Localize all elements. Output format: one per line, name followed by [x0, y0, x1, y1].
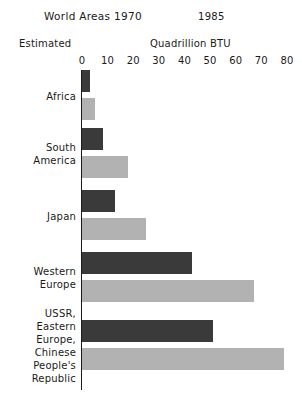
bar-group: Japan — [0, 190, 302, 240]
x-axis-ticks: 01020304050607080 — [0, 55, 302, 69]
bar-group: Western Europe — [0, 252, 302, 302]
category-label: Japan — [0, 210, 76, 223]
x-tick-label: 80 — [280, 55, 293, 66]
bar-1985 — [82, 98, 95, 120]
x-tick-label: 20 — [127, 55, 140, 66]
bar-chart: World Areas 1970 1985 Estimated Quadrill… — [0, 0, 302, 408]
category-label: Africa — [0, 90, 76, 103]
bar-1970 — [82, 128, 103, 150]
category-label: Western Europe — [0, 265, 76, 291]
chart-title-row: World Areas 1970 1985 — [0, 10, 302, 26]
estimated-note: Estimated — [19, 38, 71, 49]
category-label: South America — [0, 141, 76, 167]
title-year-1985: 1985 — [198, 11, 225, 22]
x-tick-label: 30 — [152, 55, 165, 66]
x-tick-label: 0 — [79, 55, 86, 66]
bar-1970 — [82, 190, 115, 212]
axis-unit-label: Quadrillion BTU — [150, 38, 231, 49]
bar-1970 — [82, 252, 192, 274]
page-title: World Areas 1970 — [44, 10, 142, 22]
bar-1985 — [82, 348, 284, 370]
x-tick-label: 50 — [204, 55, 217, 66]
bar-group: Africa — [0, 70, 302, 120]
x-tick-label: 10 — [101, 55, 114, 66]
bar-1985 — [82, 156, 128, 178]
category-label: USSR, Eastern Europe, Chinese People's R… — [0, 307, 76, 385]
bar-group: USSR, Eastern Europe, Chinese People's R… — [0, 320, 302, 370]
bar-1985 — [82, 280, 254, 302]
chart-subtitle-row: Estimated Quadrillion BTU — [0, 38, 302, 52]
bar-group: South America — [0, 128, 302, 178]
x-tick-label: 60 — [229, 55, 242, 66]
plot-area: AfricaSouth AmericaJapanWestern EuropeUS… — [0, 70, 302, 400]
bar-1970 — [82, 320, 213, 342]
bar-1970 — [82, 70, 90, 92]
bar-1985 — [82, 218, 146, 240]
x-tick-label: 70 — [255, 55, 268, 66]
x-tick-label: 40 — [178, 55, 191, 66]
